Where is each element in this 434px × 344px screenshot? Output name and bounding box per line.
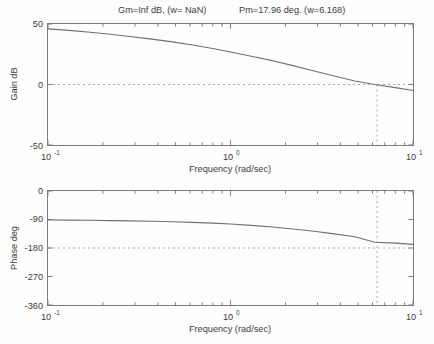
plot-title-phase-margin: Pm=17.96 deg. (w=6.168): [239, 5, 345, 15]
phase-ytick-label-minus90: -90: [30, 214, 43, 224]
phase-angle-curve: [48, 220, 413, 244]
bode-plot-figure: Gm=Inf dB, (w= NaN) Pm=17.96 deg. (w=6.1…: [0, 0, 434, 344]
phase-y-axis-label: Phase deg: [9, 226, 19, 270]
plot-title-gain-margin: Gm=Inf dB, (w= NaN): [118, 5, 206, 15]
svg-text:-1: -1: [54, 149, 60, 156]
gain-x-axis-label: Frequency (rad/sec): [189, 164, 271, 174]
gain-xtick-label-right: 10 1: [406, 149, 423, 162]
svg-text:0: 0: [236, 149, 240, 156]
svg-text:0: 0: [236, 309, 240, 316]
svg-text:10: 10: [406, 312, 416, 322]
gain-ytick-label-0: 0: [38, 80, 43, 90]
phase-ytick-label-minus360: -360: [25, 301, 43, 311]
svg-text:10: 10: [223, 152, 233, 162]
svg-text:10: 10: [41, 312, 51, 322]
svg-text:10: 10: [41, 152, 51, 162]
phase-ytick-label-0: 0: [38, 186, 43, 196]
gain-xtick-label-left: 10 -1: [41, 149, 60, 162]
phase-panel: 0 -90 -180 -270 -360 Phase deg 10 -1 10 …: [9, 186, 423, 334]
phase-ytick-label-minus180: -180: [25, 243, 43, 253]
gain-ytick-label-minus50: -50: [30, 141, 43, 151]
svg-text:10: 10: [223, 312, 233, 322]
svg-text:10: 10: [406, 152, 416, 162]
plot-canvas: Gm=Inf dB, (w= NaN) Pm=17.96 deg. (w=6.1…: [0, 0, 434, 344]
gain-panel: 50 0 -50 Gain dB 10 -1 10 0 10 1 Frequen…: [9, 19, 423, 174]
gain-ytick-label-50: 50: [33, 19, 43, 29]
phase-xtick-label-right: 10 1: [406, 309, 423, 322]
phase-ytick-label-minus270: -270: [25, 272, 43, 282]
svg-text:-1: -1: [54, 309, 60, 316]
svg-text:1: 1: [419, 309, 423, 316]
gain-magnitude-curve: [48, 29, 413, 91]
gain-y-axis-label: Gain dB: [9, 67, 19, 100]
phase-xtick-label-mid: 10 0: [223, 309, 240, 322]
svg-text:1: 1: [419, 149, 423, 156]
gain-xtick-label-mid: 10 0: [223, 149, 240, 162]
phase-x-axis-label: Frequency (rad/sec): [189, 324, 271, 334]
phase-xtick-label-left: 10 -1: [41, 309, 60, 322]
